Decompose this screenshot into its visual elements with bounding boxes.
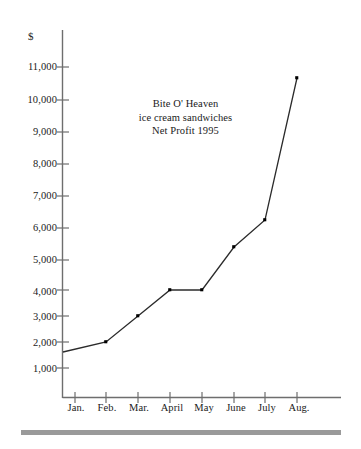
x-tick-label-mar: Mar. — [129, 402, 149, 413]
data-point-june — [232, 245, 235, 248]
net-profit-line-chart: $ 11,000 10,000 9,000 8,000 7,000 6,000 … — [0, 0, 361, 449]
chart-plot-area — [0, 0, 361, 449]
chart-title: Bite O' Heaven ice cream sandwiches Net … — [113, 97, 258, 138]
x-tick-label-feb: Feb. — [98, 402, 117, 413]
x-tick-label-june: June — [226, 402, 246, 413]
x-tick-label-april: April — [161, 402, 184, 413]
x-tick-label-july: July — [258, 402, 276, 413]
x-tick-label-jan: Jan. — [67, 402, 84, 413]
data-point-mar — [136, 314, 139, 317]
bottom-rule — [21, 430, 341, 435]
data-point-may — [200, 288, 203, 291]
x-axis-tick-labels: Jan. Feb. Mar. April May June July Aug. — [0, 402, 361, 420]
x-tick-label-aug: Aug. — [288, 402, 309, 413]
data-point-april — [168, 288, 171, 291]
data-point-feb — [104, 340, 107, 343]
chart-title-line-1: Bite O' Heaven — [113, 97, 258, 111]
chart-title-line-2: ice cream sandwiches — [113, 111, 258, 125]
x-tick-label-may: May — [194, 402, 214, 413]
data-point-july — [263, 218, 266, 221]
chart-title-line-3: Net Profit 1995 — [113, 124, 258, 138]
data-point-aug — [295, 76, 298, 79]
